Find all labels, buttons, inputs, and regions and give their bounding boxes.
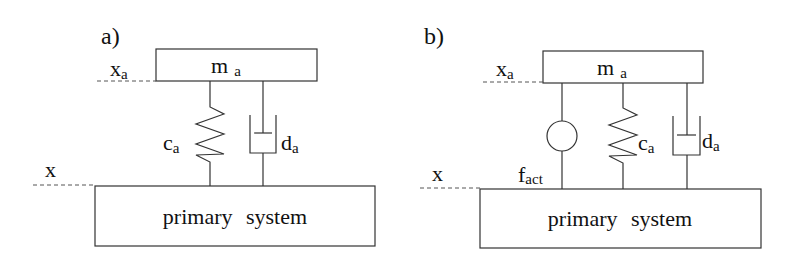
diagram-canvas: a) ma xa ca da x primary system b) ma	[0, 0, 787, 267]
damper-icon	[673, 83, 700, 189]
damper-icon	[250, 81, 276, 186]
primary-coordinate-label: x	[45, 157, 56, 182]
panel-a: a) ma xa ca da x primary system	[33, 23, 375, 246]
actuator-label: fact	[518, 162, 544, 187]
primary-system-label: primary system	[163, 204, 307, 229]
absorber-coordinate-label: xa	[496, 56, 514, 82]
actuator-icon	[547, 83, 577, 189]
mass-symbol: ma	[211, 53, 241, 79]
primary-system-label: primary system	[548, 206, 692, 231]
spring-icon	[609, 83, 637, 189]
mass-symbol: ma	[597, 55, 627, 81]
panel-b: b) ma xa fact ca da x primary system	[420, 23, 761, 248]
spring-label: ca	[638, 130, 655, 156]
panel-b-label: b)	[424, 23, 444, 49]
absorber-coordinate-label: xa	[110, 56, 128, 82]
spring-label: ca	[163, 130, 180, 156]
panel-a-label: a)	[101, 23, 120, 49]
spring-icon	[196, 81, 224, 186]
damper-label: da	[281, 130, 299, 156]
damper-label: da	[702, 128, 720, 154]
primary-coordinate-label: x	[432, 161, 443, 186]
